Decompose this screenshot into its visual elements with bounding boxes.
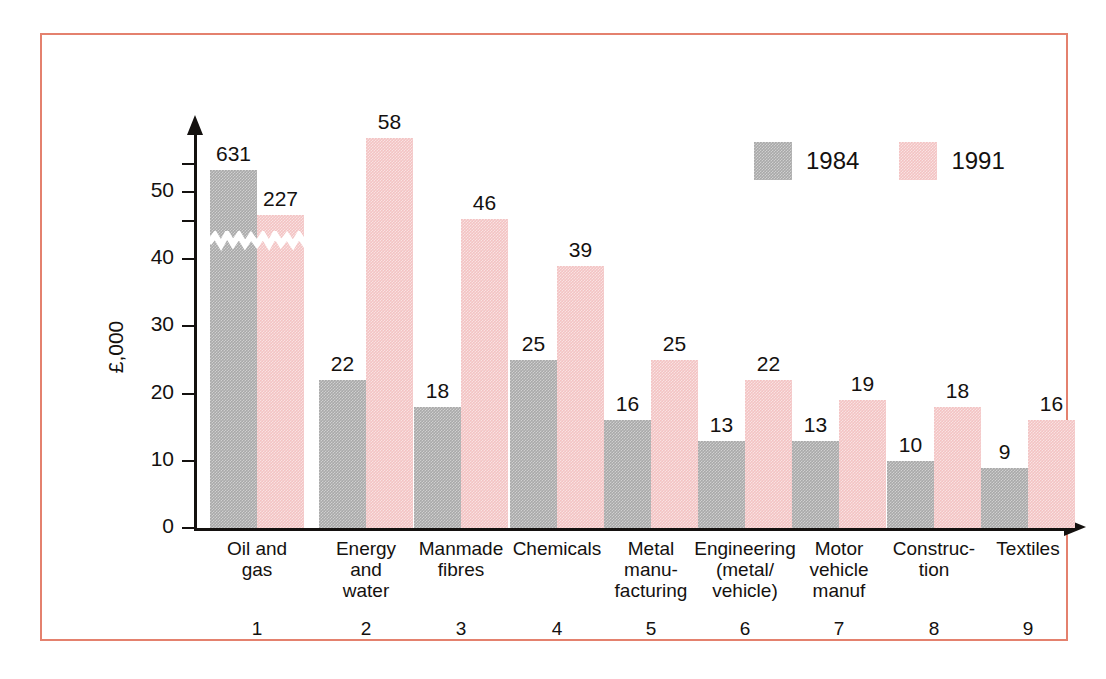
bar-value-label-1991-category-6: 22	[731, 352, 806, 376]
legend-swatch-1984-icon	[754, 142, 792, 180]
legend-item-1991: 1991	[899, 142, 1004, 180]
bar-1991-category-2	[366, 138, 413, 528]
bar-1984-category-2	[319, 380, 366, 528]
chart-plot-area: £,000 50403020100 6312272258184625391625…	[42, 35, 1066, 639]
bar-1991-category-3	[461, 219, 508, 528]
legend-item-1984: 1984	[754, 142, 859, 180]
bar-1991-category-1	[257, 215, 304, 528]
bar-value-label-1991-category-8: 18	[920, 379, 995, 403]
x-axis-category-index-9: 9	[968, 618, 1088, 640]
bar-1991-category-6	[745, 380, 792, 528]
bar-value-label-1991-category-5: 25	[637, 332, 712, 356]
legend-label-1984: 1984	[806, 147, 859, 175]
bar-1991-category-8	[934, 407, 981, 528]
bar-value-label-1991-category-2: 58	[352, 110, 427, 134]
x-axis-category-label-1: Oil and gas	[197, 538, 317, 580]
bar-value-label-1991-category-3: 46	[447, 191, 522, 215]
bar-1991-category-9	[1028, 420, 1075, 528]
bar-value-label-1991-category-7: 19	[825, 372, 900, 396]
bar-1984-category-1	[210, 170, 257, 528]
figure-frame: £,000 50403020100 6312272258184625391625…	[40, 33, 1068, 641]
bar-1984-category-9	[981, 468, 1028, 528]
bar-1984-category-6	[698, 441, 745, 528]
bar-value-label-1991-category-4: 39	[543, 238, 618, 262]
x-axis-category-index-1: 1	[197, 618, 317, 640]
bar-1991-category-5	[651, 360, 698, 528]
bar-value-label-1984-category-1: 631	[196, 142, 271, 166]
bar-1984-category-5	[604, 420, 651, 528]
legend-label-1991: 1991	[951, 147, 1004, 175]
bar-1984-category-7	[792, 441, 839, 528]
chart-legend: 1984 1991	[754, 142, 1005, 180]
legend-swatch-1991-icon	[899, 142, 937, 180]
bar-1984-category-8	[887, 461, 934, 528]
x-axis-category-label-9: Textiles	[968, 538, 1088, 559]
bar-value-label-1991-category-1: 227	[243, 187, 318, 211]
bar-value-label-1991-category-9: 16	[1014, 392, 1089, 416]
bar-1991-category-7	[839, 400, 886, 528]
bar-1984-category-4	[510, 360, 557, 528]
bar-1984-category-3	[414, 407, 461, 528]
